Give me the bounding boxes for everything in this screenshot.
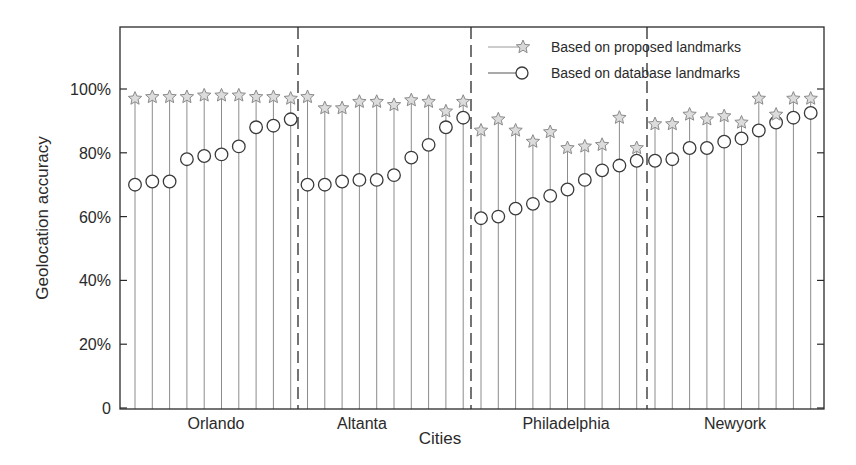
data-point-proposed xyxy=(526,135,539,148)
data-point-database xyxy=(181,153,194,166)
x-axis-title: Cities xyxy=(419,429,462,448)
data-point-database xyxy=(787,111,800,124)
data-point-proposed xyxy=(128,92,141,105)
data-point-database xyxy=(753,124,766,137)
data-point-proposed xyxy=(215,88,228,101)
y-tick-label: 100% xyxy=(70,81,111,98)
data-point-proposed xyxy=(457,95,470,108)
x-group-label: Newyork xyxy=(704,415,767,432)
x-axis-group-labels: OrlandoAltantaPhiladelphiaNewyork xyxy=(188,415,768,432)
data-point-proposed xyxy=(544,125,557,138)
data-point-proposed xyxy=(595,138,608,151)
data-point-database xyxy=(319,178,332,191)
data-point-proposed xyxy=(439,104,452,117)
data-point-database xyxy=(267,119,280,132)
data-point-database xyxy=(336,175,349,188)
data-point-database xyxy=(649,154,662,167)
data-point-database xyxy=(509,202,522,215)
data-point-database xyxy=(146,175,159,188)
data-point-proposed xyxy=(405,93,418,106)
x-group-label: Altanta xyxy=(337,415,387,432)
data-point-proposed xyxy=(474,123,487,136)
data-point-proposed xyxy=(648,117,661,130)
legend-label-proposed: Based on proposed landmarks xyxy=(551,39,741,55)
data-point-database xyxy=(613,159,626,172)
data-point-proposed xyxy=(198,88,211,101)
data-point-database xyxy=(579,174,592,187)
data-point-proposed xyxy=(267,90,280,103)
data-point-database xyxy=(233,140,246,153)
data-point-proposed xyxy=(353,95,366,108)
data-point-database xyxy=(701,142,714,155)
y-tick-label: 0 xyxy=(102,400,111,417)
data-point-database xyxy=(422,139,435,152)
data-point-database xyxy=(561,183,574,196)
data-point-proposed xyxy=(804,92,817,105)
data-point-proposed xyxy=(718,109,731,122)
stem-chart: 020%40%60%80%100% OrlandoAltantaPhiladel… xyxy=(0,0,856,465)
y-tick-label: 20% xyxy=(79,336,111,353)
data-point-database xyxy=(718,135,731,148)
data-point-proposed xyxy=(561,141,574,154)
data-point-proposed xyxy=(735,116,748,129)
plot-frame xyxy=(120,27,824,409)
data-point-database xyxy=(666,153,679,166)
circle-icon xyxy=(516,67,528,79)
data-point-database xyxy=(301,178,314,191)
data-point-proposed xyxy=(700,112,713,125)
data-point-proposed xyxy=(613,111,626,124)
y-tick-label: 60% xyxy=(79,209,111,226)
data-point-proposed xyxy=(630,141,643,154)
data-point-proposed xyxy=(284,92,297,105)
x-group-label: Philadelphia xyxy=(522,415,609,432)
data-point-proposed xyxy=(752,92,765,105)
chart-canvas: 020%40%60%80%100% OrlandoAltantaPhiladel… xyxy=(0,0,856,465)
data-point-database xyxy=(492,210,505,223)
data-point-proposed xyxy=(318,101,331,114)
data-point-database xyxy=(457,111,470,124)
data-point-database xyxy=(250,121,263,134)
data-point-database xyxy=(129,178,142,191)
y-axis-title: Geolocation accuracy xyxy=(33,136,52,300)
data-point-database xyxy=(198,150,211,163)
data-point-proposed xyxy=(509,123,522,136)
y-tick-label: 40% xyxy=(79,272,111,289)
group-divider-lines xyxy=(298,27,647,409)
y-tick-label: 80% xyxy=(79,145,111,162)
data-point-database xyxy=(544,190,557,203)
data-markers xyxy=(128,88,817,224)
data-point-database xyxy=(405,151,418,164)
data-point-database xyxy=(475,212,488,225)
data-point-database xyxy=(683,142,696,155)
data-point-proposed xyxy=(249,90,262,103)
data-point-proposed xyxy=(370,95,383,108)
data-point-database xyxy=(630,154,643,167)
data-point-database xyxy=(370,174,383,187)
data-point-proposed xyxy=(683,108,696,121)
data-point-proposed xyxy=(387,98,400,111)
data-point-database xyxy=(440,121,453,134)
data-point-proposed xyxy=(666,117,679,130)
data-point-proposed xyxy=(146,90,159,103)
data-point-database xyxy=(735,132,748,145)
star-icon xyxy=(516,40,529,53)
data-point-proposed xyxy=(180,90,193,103)
data-point-proposed xyxy=(232,88,245,101)
data-point-proposed xyxy=(301,90,314,103)
x-group-label: Orlando xyxy=(188,415,245,432)
data-point-proposed xyxy=(163,90,176,103)
data-point-database xyxy=(163,175,176,188)
legend-label-database: Based on database landmarks xyxy=(551,65,740,81)
data-point-database xyxy=(596,164,609,177)
data-point-database xyxy=(388,169,401,182)
data-point-database xyxy=(804,107,817,120)
data-point-database xyxy=(353,174,366,187)
legend: Based on proposed landmarks Based on dat… xyxy=(488,39,741,81)
data-point-database xyxy=(284,113,297,126)
data-point-database xyxy=(527,198,540,211)
data-point-proposed xyxy=(422,95,435,108)
data-point-proposed xyxy=(335,101,348,114)
data-point-proposed xyxy=(578,139,591,152)
data-point-database xyxy=(215,148,228,161)
data-point-proposed xyxy=(787,92,800,105)
